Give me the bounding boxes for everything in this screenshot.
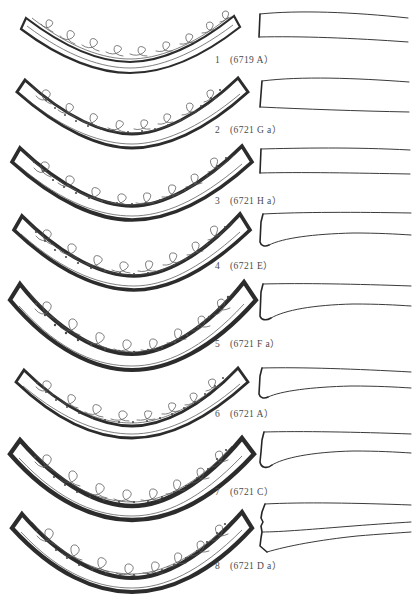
profile-drawing-1 — [253, 4, 413, 64]
profile-drawing-4 — [253, 208, 413, 270]
artifact-body-5 — [10, 282, 256, 370]
profile-drawing-3 — [253, 141, 413, 201]
artifact-drawing-6 — [8, 364, 258, 434]
figure-row-4: 4 (6721 E） — [0, 206, 415, 278]
artifact-drawing-8 — [6, 508, 256, 588]
profile-drawing-6 — [253, 364, 413, 422]
profile-drawing-2 — [253, 71, 413, 131]
figure-row-6: 6 (6721 A） — [0, 358, 415, 428]
profile-drawing-5 — [253, 280, 413, 344]
artifact-drawing-5 — [6, 282, 256, 364]
profile-drawing-8 — [253, 502, 413, 570]
profile-drawing-7 — [253, 430, 413, 490]
artifact-body-1 — [21, 16, 240, 73]
artifact-drawing-2 — [8, 74, 258, 148]
artifact-body-8 — [12, 512, 252, 592]
artifact-drawing-7 — [6, 436, 256, 510]
figure-row-1: 1 (6719 A） — [0, 0, 415, 72]
figure-row-3: 3 (6721 H a） — [0, 138, 415, 210]
figure-row-5: 5 (6721 F a） — [0, 278, 415, 358]
artifact-body-6 — [16, 368, 248, 438]
artifact-drawing-4 — [8, 212, 258, 286]
figure-row-8: 8 (6721 D a） — [0, 500, 415, 580]
figure-row-2: 2 (6721 G a） — [0, 68, 415, 140]
illustration-plate: 1 (6719 A） — [0, 0, 415, 605]
figure-row-7: 7 (6721 C） — [0, 430, 415, 502]
